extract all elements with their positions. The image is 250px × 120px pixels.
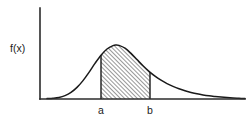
density-curve-figure: f(x) a b: [0, 0, 250, 120]
shaded-area-between-a-and-b: [101, 45, 150, 99]
y-axis-label: f(x): [10, 42, 25, 54]
x-tick-label-b: b: [147, 104, 153, 116]
x-tick-label-a: a: [98, 104, 104, 116]
plot-canvas: f(x) a b: [0, 0, 250, 120]
